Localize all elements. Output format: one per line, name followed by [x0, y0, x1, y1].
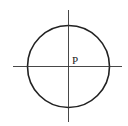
point-label: P [72, 54, 78, 66]
diagram-canvas: P [0, 0, 128, 126]
